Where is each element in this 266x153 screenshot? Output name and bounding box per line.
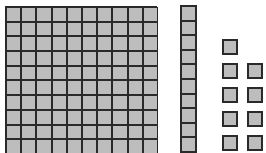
unit-cube: [222, 135, 238, 151]
hundred-cell: [67, 22, 82, 37]
hundred-cell: [112, 110, 127, 125]
hundred-cell: [112, 51, 127, 66]
hundred-cell: [128, 36, 143, 51]
ten-cell: [181, 79, 196, 94]
unit-cube: [247, 63, 263, 79]
unit-cube: [222, 111, 238, 127]
hundred-cell: [143, 139, 158, 153]
hundred-cell: [36, 22, 51, 37]
hundred-cell: [112, 95, 127, 110]
hundred-cell: [21, 110, 36, 125]
hundred-cell: [52, 66, 67, 81]
hundred-cell: [128, 22, 143, 37]
hundred-cell: [67, 7, 82, 22]
hundred-cell: [67, 125, 82, 140]
unit-cube: [222, 87, 238, 103]
hundred-cell: [36, 80, 51, 95]
ten-rod-block: [180, 5, 197, 153]
hundred-cell: [112, 7, 127, 22]
hundred-cell: [21, 51, 36, 66]
hundred-cell: [21, 7, 36, 22]
hundred-cell: [97, 95, 112, 110]
hundred-cell: [67, 66, 82, 81]
unit-cube: [247, 135, 263, 151]
hundred-cell: [143, 80, 158, 95]
hundred-cell: [97, 7, 112, 22]
hundred-cell: [21, 125, 36, 140]
hundred-cell: [143, 36, 158, 51]
hundred-cell: [52, 51, 67, 66]
hundred-cell: [97, 80, 112, 95]
hundred-cell: [67, 139, 82, 153]
hundred-cell: [52, 110, 67, 125]
hundred-cell: [143, 125, 158, 140]
hundred-cell: [6, 66, 21, 81]
hundred-cell: [36, 7, 51, 22]
hundred-cell: [82, 125, 97, 140]
hundred-cell: [67, 51, 82, 66]
hundred-cell: [97, 36, 112, 51]
hundred-cell: [143, 22, 158, 37]
hundred-cell: [143, 110, 158, 125]
hundred-cell: [21, 95, 36, 110]
unit-cube: [222, 63, 238, 79]
hundred-cell: [143, 7, 158, 22]
hundred-flat-block: [5, 6, 157, 153]
hundred-cell: [52, 125, 67, 140]
hundred-cell: [112, 66, 127, 81]
ten-cell: [181, 94, 196, 109]
hundred-cell: [82, 22, 97, 37]
hundred-cell: [82, 80, 97, 95]
hundred-cell: [97, 110, 112, 125]
hundred-cell: [112, 80, 127, 95]
hundred-cell: [128, 139, 143, 153]
unit-cube: [247, 111, 263, 127]
ten-cell: [181, 6, 196, 21]
hundred-cell: [36, 125, 51, 140]
hundred-cell: [6, 95, 21, 110]
hundred-cell: [21, 139, 36, 153]
hundred-cell: [21, 80, 36, 95]
hundred-cell: [67, 110, 82, 125]
ten-cell: [181, 64, 196, 79]
hundred-cell: [97, 22, 112, 37]
hundred-cell: [112, 139, 127, 153]
hundred-cell: [21, 66, 36, 81]
hundred-cell: [52, 7, 67, 22]
ten-cell: [181, 108, 196, 123]
hundred-cell: [128, 80, 143, 95]
hundred-cell: [52, 22, 67, 37]
hundred-cell: [6, 125, 21, 140]
hundred-cell: [128, 95, 143, 110]
hundred-cell: [128, 51, 143, 66]
hundred-cell: [6, 80, 21, 95]
hundred-cell: [112, 125, 127, 140]
hundred-cell: [52, 80, 67, 95]
hundred-cell: [97, 51, 112, 66]
hundred-cell: [67, 95, 82, 110]
hundred-cell: [21, 36, 36, 51]
hundred-cell: [36, 66, 51, 81]
hundred-cell: [6, 51, 21, 66]
ten-cell: [181, 137, 196, 152]
hundred-cell: [6, 22, 21, 37]
ten-cell: [181, 21, 196, 36]
ten-cell: [181, 123, 196, 138]
hundred-cell: [82, 95, 97, 110]
hundred-cell: [36, 110, 51, 125]
hundred-cell: [82, 139, 97, 153]
hundred-cell: [97, 139, 112, 153]
hundred-cell: [6, 139, 21, 153]
hundred-cell: [52, 139, 67, 153]
hundred-cell: [36, 95, 51, 110]
hundred-cell: [36, 139, 51, 153]
hundred-cell: [36, 51, 51, 66]
hundred-cell: [143, 66, 158, 81]
hundred-cell: [82, 66, 97, 81]
hundred-cell: [67, 36, 82, 51]
hundred-cell: [128, 110, 143, 125]
hundred-cell: [82, 36, 97, 51]
hundred-cell: [6, 36, 21, 51]
hundred-cell: [82, 7, 97, 22]
hundred-cell: [6, 110, 21, 125]
